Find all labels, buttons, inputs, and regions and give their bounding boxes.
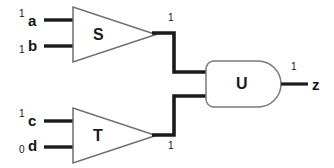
gate-U-label: U bbox=[236, 76, 248, 92]
gate-T-label: T bbox=[93, 128, 103, 144]
input-b-label: b bbox=[28, 38, 37, 53]
circuit-schematic-svg bbox=[0, 0, 334, 168]
input-b-value: 1 bbox=[19, 45, 25, 55]
gate-S-body[interactable] bbox=[73, 7, 156, 62]
input-a-value: 1 bbox=[19, 9, 25, 19]
input-d-label: d bbox=[28, 138, 37, 153]
circuit-diagram: 1 a 1 b 1 c 0 d S T U 1 1 1 z bbox=[0, 0, 334, 168]
gate-T-body[interactable] bbox=[73, 108, 156, 163]
input-c-value: 1 bbox=[19, 109, 25, 119]
output-z-value: 1 bbox=[291, 62, 297, 72]
input-d-value: 0 bbox=[19, 145, 25, 155]
wire-S-to-U bbox=[152, 33, 208, 72]
input-c-label: c bbox=[28, 113, 36, 128]
wire-S-output-value: 1 bbox=[168, 13, 174, 23]
output-z-label: z bbox=[312, 77, 320, 92]
gate-S-label: S bbox=[93, 27, 104, 43]
wire-T-to-U bbox=[152, 96, 208, 135]
input-a-label: a bbox=[28, 13, 36, 28]
wire-T-output-value: 1 bbox=[168, 141, 174, 151]
